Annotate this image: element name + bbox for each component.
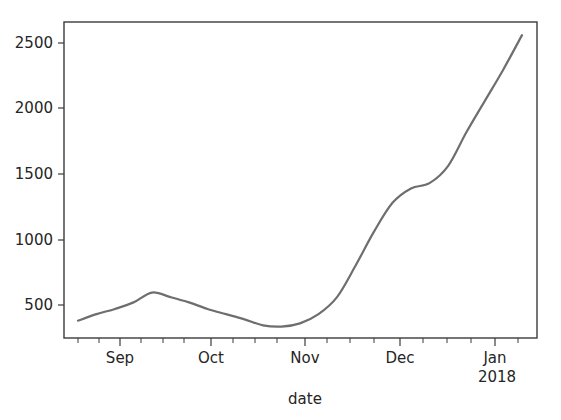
- x-tick-label-oct: Oct: [198, 349, 224, 367]
- y-tick-label-1000: 1000: [15, 231, 53, 249]
- y-tick-label-500: 500: [24, 296, 53, 314]
- line-chart-figure: 2500 2000 1500 1000 500: [0, 0, 561, 420]
- x-tick-label-dec: Dec: [385, 349, 414, 367]
- x-axis-minor-tickmarks: [78, 338, 518, 343]
- y-axis-tickmarks: [58, 43, 64, 305]
- x-tick-label-year-2018: 2018: [478, 368, 516, 386]
- y-axis-tick-labels: 2500 2000 1500 1000 500: [15, 34, 53, 314]
- x-axis-major-tickmarks: [120, 338, 495, 346]
- x-tick-label-nov: Nov: [290, 349, 319, 367]
- y-tick-label-2000: 2000: [15, 99, 53, 117]
- x-tick-label-jan: Jan: [482, 349, 506, 367]
- x-tick-label-sep: Sep: [106, 349, 134, 367]
- x-axis-title: date: [288, 390, 322, 408]
- plot-area-background: [64, 22, 537, 338]
- x-axis-tick-labels: Sep Oct Nov Dec Jan 2018: [106, 349, 516, 386]
- chart-svg: 2500 2000 1500 1000 500: [0, 0, 561, 420]
- y-tick-label-1500: 1500: [15, 165, 53, 183]
- y-tick-label-2500: 2500: [15, 34, 53, 52]
